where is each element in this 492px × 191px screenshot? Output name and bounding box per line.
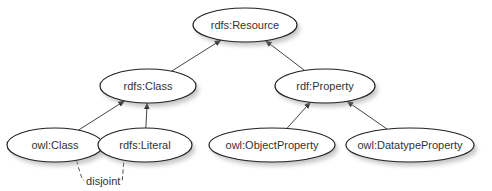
edge-class-to-resource	[172, 40, 221, 71]
node-class[interactable]: rdfs:Class	[100, 69, 199, 107]
node-label: owl:Class	[31, 139, 79, 151]
node-label: rdfs:Class	[124, 80, 173, 92]
node-property[interactable]: rdf:Property	[275, 69, 378, 107]
annotations-layer: disjoint	[77, 160, 124, 187]
node-label: rdfs:Resource	[211, 19, 279, 31]
node-literal[interactable]: rdfs:Literal	[98, 128, 195, 166]
nodes-layer: rdfs:Resourcerdfs:Classrdf:Propertyowl:C…	[7, 8, 477, 166]
node-label: owl:DatatypeProperty	[357, 139, 463, 151]
edge-dtprop-to-property	[347, 101, 387, 129]
diagram-svg: disjoint rdfs:Resourcerdfs:Classrdf:Prop…	[0, 0, 492, 191]
node-dtprop[interactable]: owl:DatatypeProperty	[346, 128, 477, 166]
disjoint-label: disjoint	[86, 175, 120, 187]
node-label: owl:ObjectProperty	[226, 139, 319, 151]
edge-property-to-resource	[265, 41, 304, 71]
node-resource[interactable]: rdfs:Resource	[193, 8, 300, 46]
edge-objprop-to-property	[287, 102, 311, 128]
node-objprop[interactable]: owl:ObjectProperty	[209, 128, 338, 166]
diagram-canvas: disjoint rdfs:Resourcerdfs:Classrdf:Prop…	[0, 0, 492, 191]
node-label: rdf:Property	[296, 80, 354, 92]
node-label: rdfs:Literal	[119, 139, 170, 151]
edge-owlclass-to-class	[78, 101, 124, 130]
node-owlclass[interactable]: owl:Class	[7, 128, 106, 166]
